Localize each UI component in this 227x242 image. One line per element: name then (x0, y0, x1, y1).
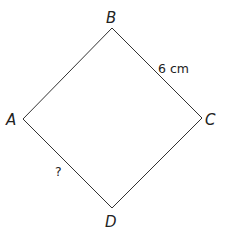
square-outline (23, 28, 202, 208)
vertex-label-a: A (5, 111, 16, 129)
edge-label-ad: ? (55, 164, 62, 179)
edge-da (23, 119, 112, 208)
vertex-label-c: C (205, 111, 216, 129)
edge-label-bc: 6 cm (158, 61, 189, 76)
edge-ab (23, 28, 112, 119)
vertex-label-d: D (105, 213, 117, 231)
edge-cd (112, 118, 202, 208)
vertex-label-b: B (106, 9, 116, 27)
square-diagram: B A C D 6 cm ? (0, 0, 227, 242)
